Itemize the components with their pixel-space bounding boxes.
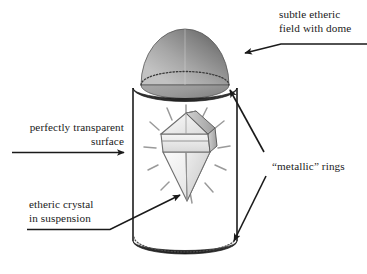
annotation-crystal: etheric crystal in suspension — [27, 195, 180, 230]
rings-leader-arrow-bottom — [234, 176, 266, 241]
surface-label-line-2: surface — [91, 135, 124, 147]
bottom-metallic-ring — [133, 237, 237, 254]
dome-label-line-1: subtle etheric — [279, 8, 340, 20]
annotation-dome: subtle etheric field with dome — [245, 8, 367, 53]
etheric-crystal-vessel-diagram: subtle etheric field with dome perfectly… — [0, 0, 367, 274]
crystal-label-line-1: etheric crystal — [29, 198, 94, 210]
dome-label-line-2: field with dome — [279, 22, 351, 34]
vessel-group — [133, 29, 237, 254]
dome-leader-arrow — [245, 44, 367, 53]
crystal-label-line-2: in suspension — [29, 212, 91, 224]
rings-label: “metallic” rings — [272, 160, 345, 172]
crystal-girdle — [161, 134, 210, 152]
dome — [141, 29, 229, 99]
crystal-lower-facet-right — [186, 152, 210, 201]
rings-leader-arrow-top — [230, 90, 264, 152]
annotation-rings: “metallic” rings — [230, 90, 345, 241]
surface-label-line-1: perfectly transparent — [30, 121, 125, 133]
annotation-surface: perfectly transparent surface — [12, 121, 125, 153]
diagram-page: subtle etheric field with dome perfectly… — [0, 0, 367, 274]
